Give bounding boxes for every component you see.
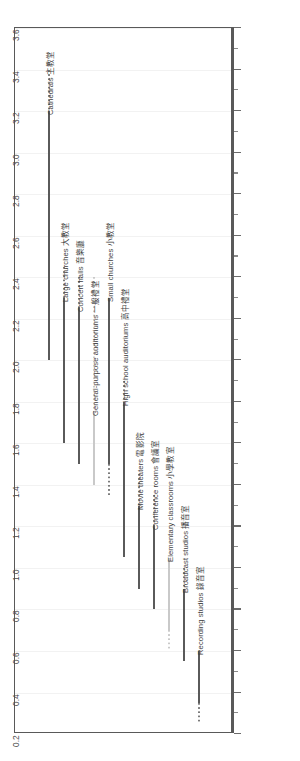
category-label: Movie theaters 電影院 [137,432,145,510]
axis-tick-minor [234,629,238,630]
axis-tick-minor [234,671,238,672]
category-label: High school auditoriums 高中禮堂 [122,288,130,406]
axis-tick-minor [234,131,238,132]
axis-tick-label: 0.6 [11,652,21,664]
bar-range-solid [93,412,95,485]
axis-tick-minor [234,463,238,464]
category-label: Cathedrals 主教堂 [47,51,55,115]
category-label: Large churches 大教堂 [62,222,70,302]
axis-tick-major [234,442,241,443]
axis-tick-major [234,110,241,111]
axis-tick-major [234,733,241,734]
axis-tick-minor [234,339,238,340]
axis-tick-label: 1.6 [11,445,21,457]
axis-tick-major [234,608,241,609]
axis-tick-label: 1.2 [11,528,21,540]
axis-tick-major [234,692,241,693]
bar-range-extension [168,630,170,651]
axis-tick-major [234,318,241,319]
axis-tick-minor [234,422,238,423]
axis-tick-label: 2.8 [11,195,21,207]
axis-tick-label: 1.4 [11,486,21,498]
category-label: Elementary classrooms 小學教室 [167,446,175,562]
axis-tick-label: 2.6 [11,237,21,249]
category-label: Small churches 小教堂 [107,222,115,302]
axis-tick-minor [234,712,238,713]
bar-range-extension [108,464,110,495]
category-label: Concert halls 音樂廳 [77,240,85,312]
axis-tick-label: 0.8 [11,611,21,623]
axis-tick-minor [234,89,238,90]
axis-tick-label: 3.0 [11,154,21,166]
axis-tick-label: 0.4 [11,694,21,706]
axis-tick-major [234,650,241,651]
axis-tick-label: 2.2 [11,320,21,332]
axis-tick-label: 3.6 [11,29,21,41]
axis-tick-minor [234,380,238,381]
axis-tick-major [234,152,241,153]
category-label: Recording studios 錄音室 [197,566,205,655]
axis-tick-major [234,401,241,402]
axis-tick-minor [234,546,238,547]
bar-range-extension [198,703,200,724]
bar-range-solid [138,506,140,589]
axis-tick-major [234,359,241,360]
axis-tick-minor [234,48,238,49]
bar-range-solid [198,651,200,703]
bar-range-solid [48,111,50,360]
gridline [15,28,231,29]
bar-range-solid [153,526,155,609]
bar-range-solid [123,402,125,558]
axis-tick-major [234,276,241,277]
axis-tick-minor [234,505,238,506]
axis-tick-label: 3.2 [11,112,21,124]
axis-tick-label: 3.4 [11,71,21,83]
bar-range-solid [183,589,185,662]
axis-tick-minor [234,255,238,256]
chart-canvas: Cathedrals 主教堂Large churches 大教堂Concert … [0,0,300,761]
axis-tick-label: 0.2 [11,735,21,747]
axis-tick-label: 2.0 [11,362,21,374]
axis-tick-major [234,69,241,70]
axis-tick-major [234,235,241,236]
bar-range-solid [78,308,80,464]
axis-tick-minor [234,172,238,173]
axis-tick-label: 2.4 [11,279,21,291]
bar-range-solid [63,298,65,443]
axis-tick-minor [234,297,238,298]
bar-range-solid [168,558,170,631]
axis-tick-major [234,525,241,526]
axis-tick-major [234,193,241,194]
bar-range-solid [108,298,110,464]
category-label: General-purpose auditoriums 一般禮堂 [92,280,100,416]
axis-tick-label: 1.0 [11,569,21,581]
axis-tick-minor [234,588,238,589]
category-label: Broadcast studios 播音室 [182,504,190,593]
plot-area: Cathedrals 主教堂Large churches 大教堂Concert … [14,27,232,733]
axis-tick-major [234,27,241,28]
axis-tick-minor [234,214,238,215]
axis-tick-label: 1.8 [11,403,21,415]
axis-tick-major [234,567,241,568]
category-label: Conference rooms 會議室 [152,440,160,531]
axis-tick-major [234,484,241,485]
